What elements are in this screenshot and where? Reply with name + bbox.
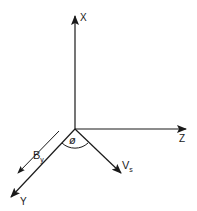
vs-subscript: s: [129, 166, 133, 173]
angle-phi-label: ø: [69, 135, 76, 146]
x-axis-label: X: [80, 13, 87, 23]
y-axis: [11, 129, 75, 197]
z-axis-label: Z: [179, 134, 185, 144]
vs-vector: [75, 129, 121, 173]
by-subscript: y: [40, 156, 44, 163]
vs-vector-label: Vs: [122, 160, 133, 171]
y-axis-label: Y: [20, 197, 27, 207]
coordinate-diagram: [0, 0, 197, 211]
by-vector-label: By: [33, 150, 44, 161]
